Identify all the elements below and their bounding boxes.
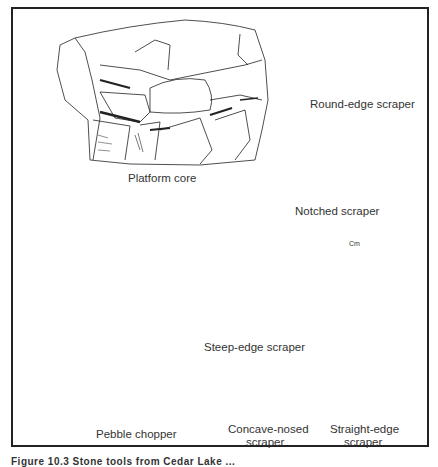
steep-edge-scraper-label: Steep-edge scraper — [204, 341, 305, 354]
platform-core-drawing — [57, 20, 268, 165]
concave-nosed-scraper-label-line1: Concave-nosed — [228, 423, 309, 436]
scale-bar-unit-label: Cm — [349, 240, 360, 247]
pebble-chopper-label: Pebble chopper — [96, 428, 177, 441]
straight-edge-scraper-label-line2: scraper — [344, 436, 382, 449]
figure-caption: Figure 10.3 Stone tools from Cedar Lake … — [11, 456, 235, 467]
concave-nosed-scraper-label-line2: scraper — [246, 436, 284, 449]
platform-core-label: Platform core — [128, 172, 196, 185]
round-edge-scraper-label: Round-edge scraper — [310, 98, 415, 111]
straight-edge-scraper-label-line1: Straight-edge — [330, 423, 399, 436]
notched-scraper-label: Notched scraper — [295, 205, 379, 218]
